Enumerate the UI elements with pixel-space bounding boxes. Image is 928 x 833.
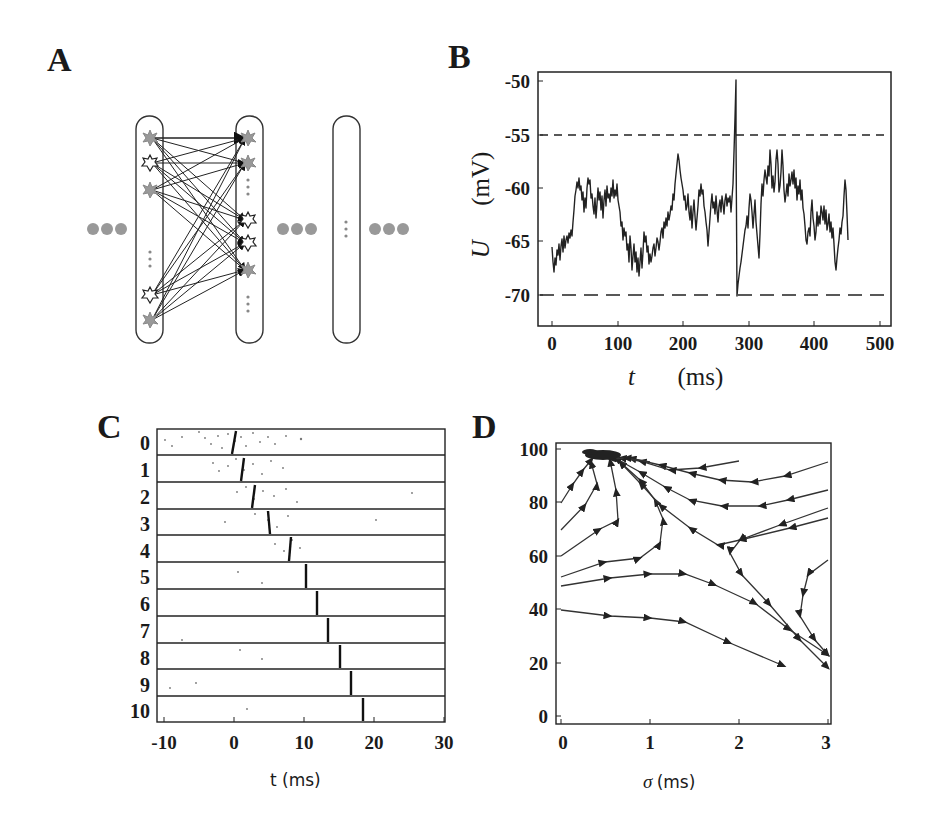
trajectory xyxy=(800,560,828,655)
trajectory xyxy=(615,458,828,506)
trajectory xyxy=(630,458,828,482)
xlabel-d: σ (ms) xyxy=(643,772,695,791)
trajectory xyxy=(561,610,784,666)
xtick-d-2: 2 xyxy=(734,733,744,752)
trajectories xyxy=(561,458,828,668)
ytick-d-0: 0 xyxy=(500,707,548,726)
ytick-d-60: 60 xyxy=(500,547,548,566)
trajectory xyxy=(561,460,618,556)
xlabel-d-var: σ xyxy=(643,771,652,792)
ytick-d-80: 80 xyxy=(500,493,548,512)
panel-d-state-space-plot xyxy=(0,0,928,833)
xlabel-d-unit: (ms) xyxy=(657,772,696,792)
ytick-d-100: 100 xyxy=(500,440,548,459)
attractor-cluster xyxy=(582,449,621,460)
xtick-d-3: 3 xyxy=(821,733,831,752)
trajectory xyxy=(561,459,592,503)
xtick-d-1: 1 xyxy=(645,733,655,752)
trajectory xyxy=(730,508,828,668)
plot-frame-d xyxy=(556,443,831,724)
trajectory xyxy=(561,462,597,530)
trajectory xyxy=(620,462,828,545)
ytick-d-20: 20 xyxy=(500,654,548,673)
ytick-d-40: 40 xyxy=(500,600,548,619)
xtick-d-0: 0 xyxy=(558,733,568,752)
